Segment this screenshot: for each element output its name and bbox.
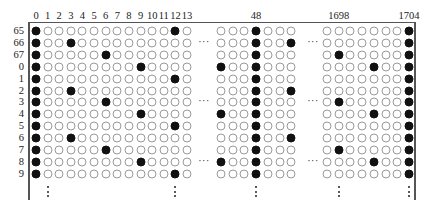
filled-bit-dot	[32, 157, 41, 166]
empty-bit-dot	[55, 146, 64, 155]
empty-bit-dot	[78, 146, 87, 155]
filled-bit-dot	[287, 134, 296, 143]
empty-bit-dot	[159, 169, 168, 178]
empty-bit-dot	[287, 157, 296, 166]
filled-bit-dot	[171, 122, 180, 131]
row-label: 1	[19, 74, 24, 84]
empty-bit-dot	[381, 74, 390, 83]
empty-bit-dot	[101, 62, 110, 71]
filled-bit-dot	[252, 86, 261, 95]
empty-bit-dot	[136, 98, 145, 107]
empty-bit-dot	[124, 98, 133, 107]
empty-bit-dot	[66, 62, 75, 71]
filled-bit-dot	[404, 122, 413, 131]
empty-bit-dot	[358, 50, 367, 59]
empty-bit-dot	[148, 50, 157, 59]
empty-bit-dot	[90, 74, 99, 83]
empty-bit-dot	[334, 62, 343, 71]
empty-bit-dot	[136, 50, 145, 59]
row-label: 6	[19, 133, 24, 143]
column-label: 7	[115, 11, 120, 21]
empty-bit-dot	[66, 110, 75, 119]
empty-bit-dot	[136, 134, 145, 143]
empty-bit-dot	[358, 62, 367, 71]
frame-right-border	[414, 22, 416, 200]
empty-bit-dot	[43, 74, 52, 83]
filled-bit-dot	[32, 98, 41, 107]
filled-bit-dot	[32, 50, 41, 59]
filled-bit-dot	[287, 86, 296, 95]
empty-bit-dot	[323, 50, 332, 59]
empty-bit-dot	[78, 169, 87, 178]
empty-bit-dot	[240, 62, 249, 71]
filled-bit-dot	[171, 169, 180, 178]
empty-bit-dot	[101, 169, 110, 178]
filled-bit-dot	[171, 74, 180, 83]
filled-bit-dot	[404, 74, 413, 83]
row-label: 65	[14, 26, 25, 36]
filled-bit-dot	[404, 110, 413, 119]
empty-bit-dot	[159, 27, 168, 36]
empty-bit-dot	[113, 134, 122, 143]
empty-bit-dot	[217, 50, 226, 59]
filled-bit-dot	[136, 157, 145, 166]
empty-bit-dot	[346, 86, 355, 95]
empty-bit-dot	[183, 110, 192, 119]
filled-bit-dot	[66, 134, 75, 143]
empty-bit-dot	[43, 50, 52, 59]
empty-bit-dot	[381, 86, 390, 95]
empty-bit-dot	[381, 110, 390, 119]
empty-bit-dot	[171, 50, 180, 59]
empty-bit-dot	[183, 62, 192, 71]
empty-bit-dot	[217, 169, 226, 178]
row-label: 67	[14, 50, 25, 60]
filled-bit-dot	[217, 157, 226, 166]
empty-bit-dot	[183, 98, 192, 107]
empty-bit-dot	[369, 98, 378, 107]
empty-bit-dot	[66, 98, 75, 107]
empty-bit-dot	[228, 62, 237, 71]
column-label: 2	[57, 11, 62, 21]
empty-bit-dot	[275, 169, 284, 178]
empty-bit-dot	[55, 122, 64, 131]
filled-bit-dot	[252, 50, 261, 59]
filled-bit-dot	[32, 134, 41, 143]
empty-bit-dot	[101, 86, 110, 95]
empty-bit-dot	[358, 74, 367, 83]
empty-bit-dot	[323, 134, 332, 143]
empty-bit-dot	[159, 50, 168, 59]
empty-bit-dot	[66, 146, 75, 155]
column-label: 5	[91, 11, 96, 21]
empty-bit-dot	[55, 38, 64, 47]
column-label: 1698	[328, 11, 349, 21]
empty-bit-dot	[381, 146, 390, 155]
empty-bit-dot	[78, 86, 87, 95]
empty-bit-dot	[334, 110, 343, 119]
filled-bit-dot	[252, 74, 261, 83]
empty-bit-dot	[171, 157, 180, 166]
empty-bit-dot	[393, 27, 402, 36]
empty-bit-dot	[358, 169, 367, 178]
filled-bit-dot	[404, 98, 413, 107]
empty-bit-dot	[78, 110, 87, 119]
empty-bit-dot	[90, 38, 99, 47]
filled-bit-dot	[252, 98, 261, 107]
filled-bit-dot	[334, 50, 343, 59]
filled-bit-dot	[369, 157, 378, 166]
empty-bit-dot	[78, 98, 87, 107]
empty-bit-dot	[124, 110, 133, 119]
filled-bit-dot	[252, 62, 261, 71]
row-label: 3	[19, 97, 24, 107]
empty-bit-dot	[217, 98, 226, 107]
vertical-ellipsis	[47, 186, 49, 200]
filled-bit-dot	[32, 74, 41, 83]
empty-bit-dot	[240, 38, 249, 47]
empty-bit-dot	[90, 27, 99, 36]
empty-bit-dot	[66, 74, 75, 83]
empty-bit-dot	[113, 86, 122, 95]
empty-bit-dot	[78, 74, 87, 83]
empty-bit-dot	[263, 134, 272, 143]
filled-bit-dot	[404, 146, 413, 155]
empty-bit-dot	[136, 122, 145, 131]
row-label: 66	[14, 38, 25, 48]
